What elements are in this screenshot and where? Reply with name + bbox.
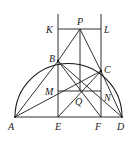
label-P: P [76,16,83,27]
label-Q: Q [75,96,83,107]
segment-PB [58,29,80,61]
segment-PC [80,29,101,71]
label-F: F [94,121,102,132]
label-C: C [104,64,111,75]
label-A: A [7,121,15,132]
segment-CE [58,71,101,117]
geometry-diagram: K P L B C M N Q A E F D [0,0,134,142]
label-B: B [49,53,55,64]
label-E: E [54,121,61,132]
label-D: D [116,121,125,132]
label-M: M [44,86,54,97]
point-B [57,60,59,62]
point-A [14,116,16,118]
label-K: K [45,24,54,35]
label-L: L [103,24,110,35]
point-C [100,70,102,72]
segment-BF [58,61,101,117]
label-N: N [103,92,112,103]
point-D [121,116,123,118]
